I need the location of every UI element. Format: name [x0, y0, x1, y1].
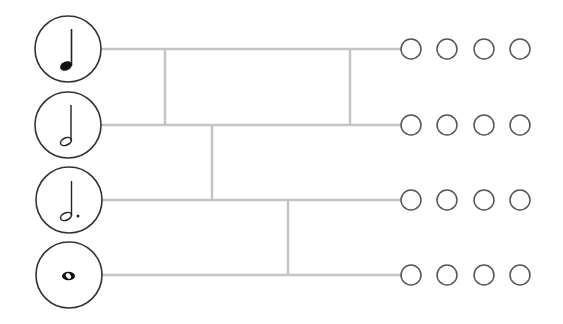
horizontal-lines [101, 49, 401, 275]
answer-row-whole [401, 265, 530, 285]
answer-circle[interactable] [510, 39, 530, 59]
note-value-ladder-diagram [0, 0, 563, 324]
answer-circle[interactable] [401, 39, 421, 59]
dotted-half-note-circle [36, 167, 102, 233]
answer-circle[interactable] [510, 190, 530, 210]
vertical-connectors [165, 49, 350, 275]
answer-circle[interactable] [474, 190, 494, 210]
answer-circle[interactable] [474, 39, 494, 59]
whole-note-icon [62, 272, 75, 281]
answer-circle[interactable] [510, 115, 530, 135]
answer-circle[interactable] [510, 265, 530, 285]
half-note-circle [35, 92, 101, 158]
answer-circle[interactable] [437, 115, 457, 135]
answer-circle[interactable] [437, 190, 457, 210]
answer-circle[interactable] [401, 190, 421, 210]
answer-circle[interactable] [437, 39, 457, 59]
answer-circle[interactable] [474, 265, 494, 285]
answer-row-quarter [401, 39, 530, 59]
answer-row-dotted-half [401, 190, 530, 210]
answer-circle[interactable] [474, 115, 494, 135]
quarter-note-circle [35, 16, 101, 82]
answer-circle[interactable] [401, 115, 421, 135]
answer-circle[interactable] [437, 265, 457, 285]
answer-row-half [401, 115, 530, 135]
answer-circle[interactable] [401, 265, 421, 285]
